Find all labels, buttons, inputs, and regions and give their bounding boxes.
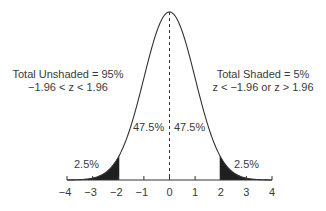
unshaded-title: Total Unshaded = 95% [4, 68, 132, 81]
x-tick-label: −3 [81, 186, 101, 198]
x-tick-label: 4 [262, 186, 282, 198]
x-tick-label: 2 [211, 186, 231, 198]
shaded-annotation: Total Shaded = 5% z < −1.96 or z > 1.96 [200, 68, 326, 94]
x-tick-label: −1 [132, 186, 152, 198]
unshaded-range: −1.96 < z < 1.96 [4, 81, 132, 94]
x-tick-label: 3 [236, 186, 256, 198]
x-tick-label: 0 [160, 186, 180, 198]
x-tick-label: −2 [106, 186, 126, 198]
unshaded-annotation: Total Unshaded = 95% −1.96 < z < 1.96 [4, 68, 132, 94]
right-center-percent-label: 47.5% [174, 121, 205, 134]
right-tail-percent-label: 2.5% [234, 158, 259, 171]
left-center-percent-label: 47.5% [133, 121, 164, 134]
left-tail-percent-label: 2.5% [74, 158, 99, 171]
shaded-range: z < −1.96 or z > 1.96 [200, 81, 326, 94]
shaded-title: Total Shaded = 5% [200, 68, 326, 81]
normal-distribution-chart [0, 0, 326, 211]
x-tick-label: −4 [55, 186, 75, 198]
x-tick-label: 1 [185, 186, 205, 198]
